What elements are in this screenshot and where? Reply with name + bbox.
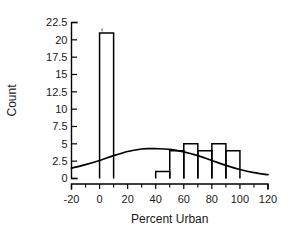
y-tick-label: 10 <box>55 103 67 115</box>
y-tick-label: 17.5 <box>46 51 67 63</box>
histogram-chart: 02.557.51012.51517.52022.5Count-20020406… <box>0 0 288 237</box>
histogram-bar <box>170 151 184 179</box>
y-tick-label: 20 <box>55 34 67 46</box>
y-tick-label: 22.5 <box>46 16 67 28</box>
histogram-bar <box>184 144 198 179</box>
y-tick-label: 7.5 <box>52 120 67 132</box>
x-axis-title: Percent Urban <box>131 212 208 226</box>
chart-canvas: 02.557.51012.51517.52022.5Count-20020406… <box>0 0 288 237</box>
y-tick-label: 2.5 <box>52 155 67 167</box>
histogram-bar <box>226 151 240 179</box>
x-tick-label: 20 <box>122 193 134 205</box>
x-tick-label: -20 <box>64 193 80 205</box>
x-tick-label: 120 <box>259 193 277 205</box>
x-tick-label: 80 <box>206 193 218 205</box>
x-tick-label: 100 <box>231 193 249 205</box>
x-tick-label: 40 <box>150 193 162 205</box>
y-axis-line <box>72 23 78 179</box>
y-axis-title: Count <box>5 84 19 117</box>
y-tick-label: 12.5 <box>46 86 67 98</box>
y-tick-label: 0 <box>61 172 67 184</box>
histogram-bar <box>198 151 212 179</box>
x-tick-label: 60 <box>178 193 190 205</box>
x-tick-label: 0 <box>97 193 103 205</box>
y-tick-label: 15 <box>55 68 67 80</box>
y-tick-label: 5 <box>61 138 67 150</box>
histogram-bar <box>156 172 170 179</box>
